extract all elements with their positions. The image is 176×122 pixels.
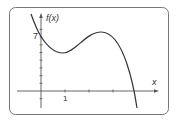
function-graph bbox=[0, 0, 176, 122]
x-axis-label: x bbox=[152, 78, 157, 87]
y-tick-label-7: 7 bbox=[33, 32, 38, 41]
x-tick-label-1: 1 bbox=[63, 95, 67, 103]
y-axis-label: f(x) bbox=[46, 14, 59, 23]
graph-frame bbox=[10, 8, 169, 115]
